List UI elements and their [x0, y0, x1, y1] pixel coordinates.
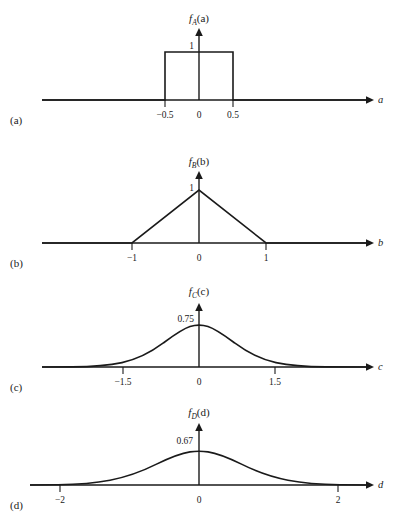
- xtick-label-d-0: −2: [55, 495, 65, 505]
- density-curve-a: [42, 52, 366, 100]
- density-curve-d: [30, 451, 366, 485]
- peak-label-a: 1: [189, 41, 194, 51]
- panel-b-plot: −1 0 1 1 fB(b) b: [0, 143, 400, 283]
- x-axis-arrow-b: [366, 239, 374, 247]
- panel-a-plot: −0.5 0 0.5 1 fA(a) a: [0, 0, 400, 140]
- figure-container: −0.5 0 0.5 1 fA(a) a (a) −1 0: [0, 0, 400, 526]
- xtick-label-b-2: 1: [264, 253, 269, 263]
- x-axis-arrow-d: [366, 481, 374, 489]
- panel-tag-b: (b): [10, 257, 23, 269]
- panel-d: −2 0 2 0.67 fD(d) d (d): [0, 399, 400, 526]
- peak-label-d: 0.67: [176, 436, 193, 446]
- xtick-label-b-0: −1: [127, 253, 137, 263]
- xtick-label-c-2: 1.5: [269, 377, 281, 387]
- panel-c: −1.5 0 1.5 0.75 fC(c) c (c): [0, 273, 400, 405]
- density-curve-b: [42, 190, 366, 243]
- x-axis-label-c: c: [378, 361, 383, 372]
- xtick-label-b-1: 0: [197, 253, 202, 263]
- x-axis-label-a: a: [378, 94, 383, 105]
- x-axis-arrow-a: [366, 96, 374, 104]
- density-label-c: fC(c): [189, 285, 210, 300]
- xtick-label-a-2: 0.5: [227, 110, 239, 120]
- x-axis-arrow-c: [366, 363, 374, 371]
- panel-tag-c: (c): [10, 381, 22, 393]
- peak-label-b: 1: [189, 183, 194, 193]
- x-axis-label-b: b: [378, 237, 383, 248]
- panel-d-plot: −2 0 2 0.67 fD(d) d: [0, 399, 400, 526]
- panel-b: −1 0 1 1 fB(b) b (b): [0, 143, 400, 283]
- xtick-label-d-2: 2: [336, 495, 341, 505]
- density-label-d: fD(d): [188, 406, 210, 421]
- panel-tag-a: (a): [10, 114, 22, 126]
- y-axis-arrow-b: [195, 171, 203, 179]
- xtick-label-d-1: 0: [197, 495, 202, 505]
- panel-c-plot: −1.5 0 1.5 0.75 fC(c) c: [0, 273, 400, 405]
- panel-a: −0.5 0 0.5 1 fA(a) a (a): [0, 0, 400, 140]
- density-curve-c: [42, 325, 366, 367]
- y-axis-arrow-a: [195, 28, 203, 36]
- peak-label-c: 0.75: [177, 314, 194, 324]
- density-label-a: fA(a): [189, 12, 209, 27]
- xtick-label-c-0: −1.5: [114, 377, 131, 387]
- y-axis-arrow-c: [195, 303, 203, 311]
- xtick-label-a-0: −0.5: [156, 110, 173, 120]
- xtick-label-c-1: 0: [197, 377, 202, 387]
- y-axis-arrow-d: [195, 423, 203, 431]
- x-axis-label-d: d: [378, 479, 384, 490]
- xtick-label-a-1: 0: [197, 110, 202, 120]
- panel-tag-d: (d): [10, 499, 23, 511]
- density-label-b: fB(b): [189, 155, 210, 170]
